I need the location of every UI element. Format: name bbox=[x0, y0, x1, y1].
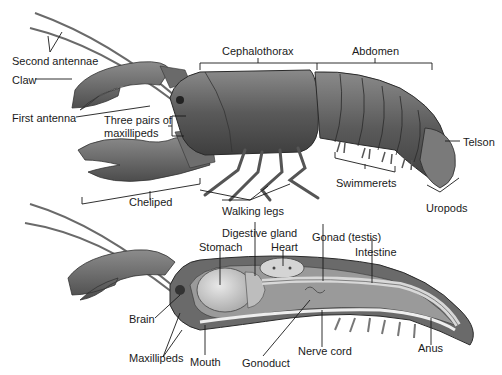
label-claw: Claw bbox=[12, 74, 36, 86]
label-digestive-gland: Digestive gland bbox=[222, 227, 297, 239]
label-walking-legs: Walking legs bbox=[222, 205, 284, 217]
external-lobster bbox=[30, 13, 455, 200]
label-cheliped: Cheliped bbox=[129, 196, 172, 208]
label-stomach: Stomach bbox=[199, 241, 242, 253]
label-intestine: Intestine bbox=[355, 246, 397, 258]
label-gonad: Gonad (testis) bbox=[312, 231, 381, 243]
label-brain: Brain bbox=[129, 313, 155, 325]
label-uropods: Uropods bbox=[426, 202, 468, 214]
label-telson: Telson bbox=[463, 136, 495, 148]
label-maxillipeds-line1: Three pairs of bbox=[104, 114, 172, 126]
label-swimmerets: Swimmerets bbox=[336, 177, 397, 189]
label-cephalothorax: Cephalothorax bbox=[222, 45, 294, 57]
label-first-antenna: First antenna bbox=[12, 112, 76, 124]
label-abdomen: Abdomen bbox=[352, 45, 399, 57]
label-heart: Heart bbox=[271, 241, 298, 253]
label-mouth: Mouth bbox=[190, 356, 221, 368]
lobster-anatomy-diagram: Second antennae Claw First antenna Three… bbox=[0, 0, 502, 375]
label-anus: Anus bbox=[418, 342, 443, 354]
internal-lobster bbox=[25, 204, 473, 345]
label-gonoduct: Gonoduct bbox=[242, 357, 290, 369]
label-maxillipeds: Maxillipeds bbox=[129, 352, 183, 364]
label-maxillipeds-line2: maxillipeds bbox=[104, 127, 158, 139]
label-nerve-cord: Nerve cord bbox=[298, 345, 352, 357]
label-second-antennae: Second antennae bbox=[12, 55, 98, 67]
